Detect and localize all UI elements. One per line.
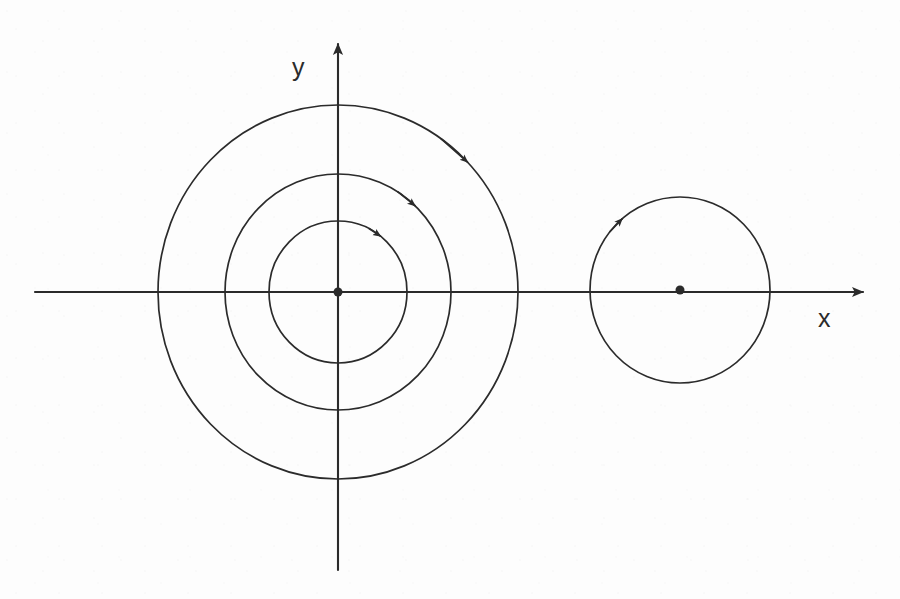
right-orbit-direction-arrow bbox=[610, 219, 622, 232]
phase-portrait-canvas: x y bbox=[0, 0, 900, 599]
outer-orbit-direction-arrow bbox=[441, 139, 467, 162]
origin-center-dot bbox=[334, 288, 343, 297]
orbit-direction-arrow-group bbox=[369, 139, 622, 236]
x-axis-label: x bbox=[818, 304, 831, 332]
right-center-dot bbox=[676, 286, 685, 295]
y-axis-label: y bbox=[292, 53, 305, 81]
middle-orbit-direction-arrow bbox=[398, 192, 415, 206]
inner-orbit-direction-arrow bbox=[369, 229, 380, 236]
phase-portrait-figure: x y bbox=[0, 0, 900, 599]
